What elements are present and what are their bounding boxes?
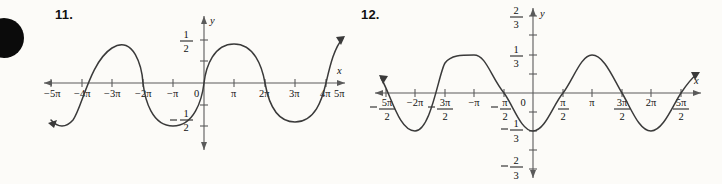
x-tick-label-neg2pi-12: −2π (407, 97, 424, 108)
curve-11 (51, 38, 343, 126)
x-tick-label-neg5pi: −5π (44, 88, 61, 99)
x-tick-label-3pi-over-2: 3π 2 (614, 97, 630, 122)
y-axis-label-12: y (539, 8, 545, 19)
svg-text:3: 3 (513, 170, 518, 181)
y-tick-label-neg-two-thirds: 2 3 (501, 155, 523, 181)
x-tick-label-pi-over-2: π 2 (558, 97, 569, 122)
y-tick-label-neg-half: 1 2 (170, 108, 193, 133)
svg-text:2: 2 (442, 111, 447, 122)
svg-text:1: 1 (513, 118, 518, 129)
graph-11-svg: −5π −4π −3π −2π −π 0 π 2π 3π 4π 5π x y 1… (0, 0, 361, 184)
worksheet-page: 11. (0, 0, 722, 184)
svg-text:2: 2 (560, 111, 565, 122)
svg-text:1: 1 (513, 44, 518, 55)
exercise-12-panel: 12. (361, 0, 722, 184)
svg-text:2: 2 (183, 43, 188, 54)
svg-text:2: 2 (513, 155, 518, 166)
svg-text:2: 2 (513, 5, 518, 16)
svg-text:3π: 3π (440, 97, 451, 108)
x-tick-label-neg3pi: −3π (104, 88, 121, 99)
y-tick-label-two-thirds: 2 3 (510, 5, 523, 30)
svg-text:1: 1 (183, 108, 188, 119)
x-tick-label-5pi-over-2: 5π 2 (673, 97, 689, 122)
svg-text:2: 2 (678, 111, 683, 122)
x-tick-label-pi: π (231, 88, 237, 99)
svg-text:3π: 3π (617, 97, 628, 108)
x-axis-12 (375, 90, 701, 96)
x-tick-label-negpi-12: −π (468, 97, 480, 108)
exercise-11-panel: 11. (0, 0, 361, 184)
x-axis-label-11: x (336, 65, 342, 76)
x-tick-label-neg3pi-over-2: 3π 2 (428, 97, 453, 122)
x-tick-label-3pi: 3π (289, 88, 300, 99)
svg-text:2: 2 (384, 111, 389, 122)
y-tick-label-one-third: 1 3 (510, 44, 523, 69)
svg-text:1: 1 (183, 29, 188, 40)
x-tick-label-pi-12: π (589, 97, 595, 108)
y-tick-label-half: 1 2 (180, 29, 193, 54)
svg-text:2: 2 (619, 111, 624, 122)
svg-text:3: 3 (513, 133, 518, 144)
svg-text:2: 2 (502, 111, 507, 122)
graph-12-svg: x y 5π 2 −2π 3π 2 −π π (361, 0, 722, 184)
x-tick-label-negpi: −π (167, 88, 179, 99)
svg-text:3: 3 (513, 58, 518, 69)
svg-text:3: 3 (513, 19, 518, 30)
x-tick-label-2pi-12: 2π (646, 97, 657, 108)
origin-label-12: 0 (520, 97, 525, 108)
origin-label-11: 0 (194, 88, 199, 99)
svg-text:π: π (560, 97, 566, 108)
x-tick-label-5pi: 5π (334, 88, 345, 99)
y-axis-label-11: y (209, 15, 215, 26)
